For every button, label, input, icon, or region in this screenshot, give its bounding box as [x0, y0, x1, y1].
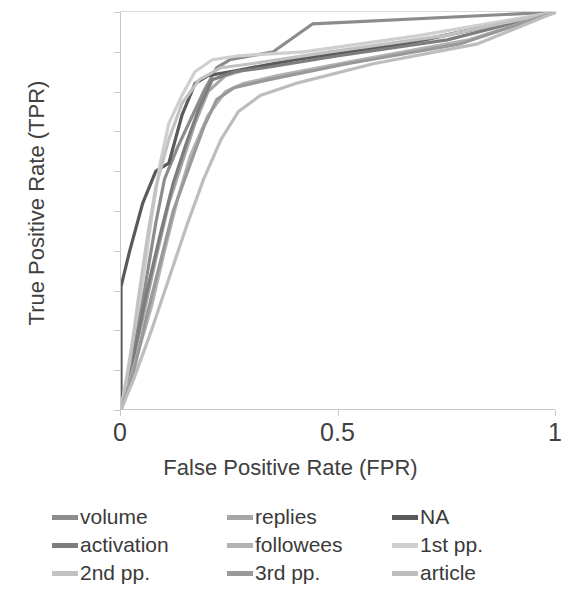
legend-item-article[interactable]: article [392, 561, 476, 585]
legend-item-1st-pp[interactable]: 1st pp. [392, 533, 483, 557]
legend-item-na[interactable]: NA [392, 505, 449, 529]
x-tick-label: 1 [510, 420, 581, 445]
legend-label: 2nd pp. [80, 561, 150, 585]
x-tick-mark [338, 410, 339, 416]
chart-legend: volumerepliesNAactivationfollowees1st pp… [52, 503, 552, 587]
legend-label: replies [255, 505, 317, 529]
legend-item-volume[interactable]: volume [52, 505, 227, 529]
legend-item-3rd-pp[interactable]: 3rd pp. [227, 561, 392, 585]
legend-label: NA [420, 505, 449, 529]
x-tick-label: 0 [75, 420, 165, 445]
plot-area [120, 12, 555, 410]
legend-swatch-icon [52, 571, 78, 576]
roc-series-article [121, 12, 556, 410]
legend-label: 3rd pp. [255, 561, 320, 585]
legend-item-2nd-pp[interactable]: 2nd pp. [52, 561, 227, 585]
legend-swatch-icon [52, 515, 78, 520]
legend-swatch-icon [227, 515, 253, 520]
legend-label: followees [255, 533, 343, 557]
legend-item-followees[interactable]: followees [227, 533, 392, 557]
roc-curves [121, 12, 556, 410]
legend-swatch-icon [392, 571, 418, 576]
legend-swatch-icon [52, 543, 78, 548]
legend-swatch-icon [227, 571, 253, 576]
y-axis-title: True Positive Rate (TPR) [24, 3, 50, 403]
roc-chart: True Positive Rate (TPR) 00.10.20.30.40.… [0, 0, 581, 592]
x-axis-title: False Positive Rate (FPR) [0, 455, 581, 481]
legend-swatch-icon [227, 543, 253, 548]
x-tick-label: 0.5 [293, 420, 383, 445]
x-tick-mark [555, 410, 556, 416]
x-tick-mark [120, 410, 121, 416]
legend-label: activation [80, 533, 169, 557]
legend-label: article [420, 561, 476, 585]
legend-swatch-icon [392, 543, 418, 548]
legend-swatch-icon [392, 515, 418, 520]
legend-label: volume [80, 505, 148, 529]
legend-item-replies[interactable]: replies [227, 505, 392, 529]
legend-label: 1st pp. [420, 533, 483, 557]
legend-item-activation[interactable]: activation [52, 533, 227, 557]
